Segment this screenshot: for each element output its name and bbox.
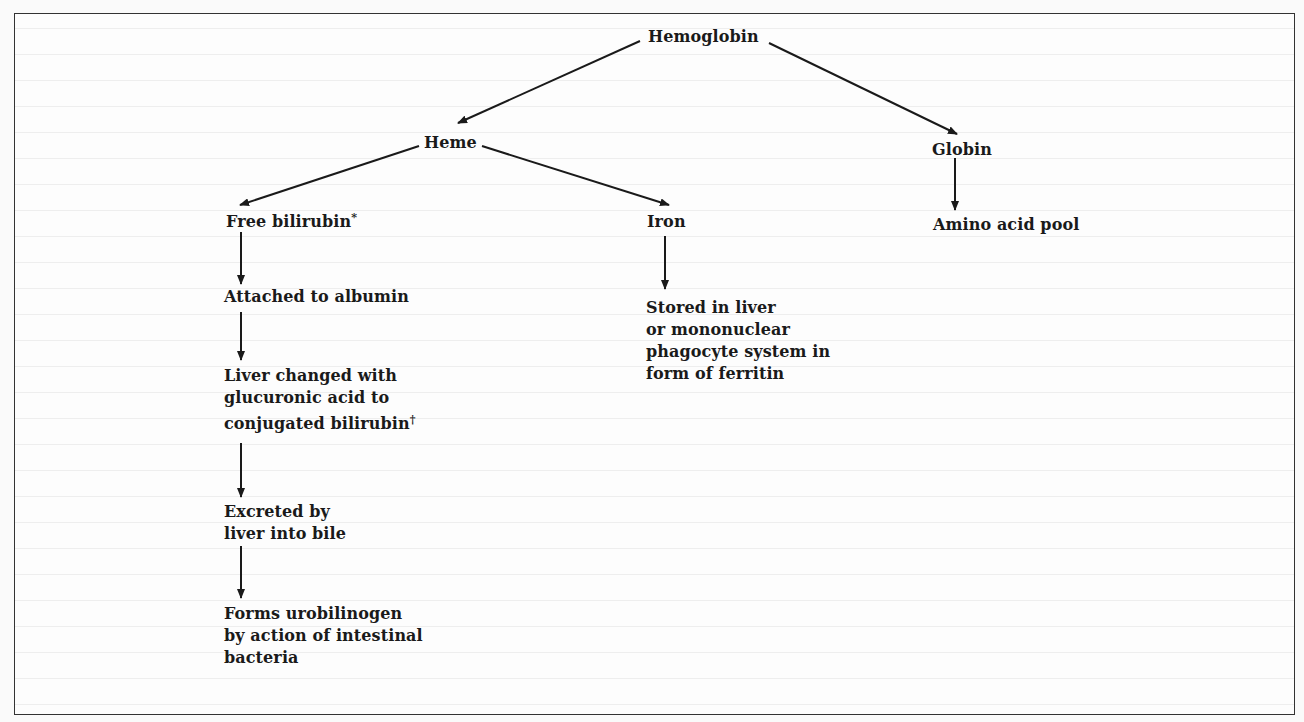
node-excreted: Excreted by liver into bile: [224, 501, 346, 545]
node-free-bilirubin: Free bilirubin*: [226, 207, 357, 233]
node-globin: Globin: [932, 139, 992, 161]
arrow-hemoglobin-globin: [769, 43, 957, 134]
node-amino-acid-pool: Amino acid pool: [933, 214, 1079, 236]
node-label: Heme: [424, 133, 477, 152]
node-label-line: or mononuclear: [646, 319, 830, 341]
arrow-hemoglobin-heme: [458, 41, 640, 123]
node-label: Iron: [647, 212, 686, 231]
node-label-line: Liver changed with: [224, 365, 416, 387]
node-label-line: Excreted by: [224, 501, 346, 523]
node-stored-liver: Stored in liver or mononuclear phagocyte…: [646, 297, 830, 385]
node-attached-albumin: Attached to albumin: [224, 286, 409, 308]
node-iron: Iron: [647, 211, 686, 233]
node-heme: Heme: [424, 132, 477, 154]
node-label-line: glucuronic acid to: [224, 387, 416, 409]
node-urobilinogen: Forms urobilinogen by action of intestin…: [224, 603, 423, 669]
node-label-line: phagocyte system in: [646, 341, 830, 363]
node-label-line: by action of intestinal: [224, 625, 423, 647]
footnote-asterisk: *: [351, 211, 357, 224]
node-label: Attached to albumin: [224, 287, 409, 306]
node-label-line: Stored in liver: [646, 297, 830, 319]
node-label: Amino acid pool: [933, 215, 1079, 234]
node-label-line: Forms urobilinogen: [224, 603, 423, 625]
arrow-heme-iron: [482, 146, 669, 205]
node-label-line: liver into bile: [224, 523, 346, 545]
node-label-line: conjugated bilirubin: [224, 414, 410, 433]
node-label: Hemoglobin: [648, 27, 759, 46]
node-label: Free bilirubin: [226, 212, 351, 231]
node-label: Globin: [932, 140, 992, 159]
node-label-line: bacteria: [224, 647, 423, 669]
arrow-heme-bilirubin: [240, 146, 419, 205]
node-label-line: form of ferritin: [646, 363, 830, 385]
node-hemoglobin: Hemoglobin: [648, 26, 759, 48]
node-liver-changed: Liver changed with glucuronic acid to co…: [224, 365, 416, 435]
footnote-dagger: †: [410, 413, 416, 426]
